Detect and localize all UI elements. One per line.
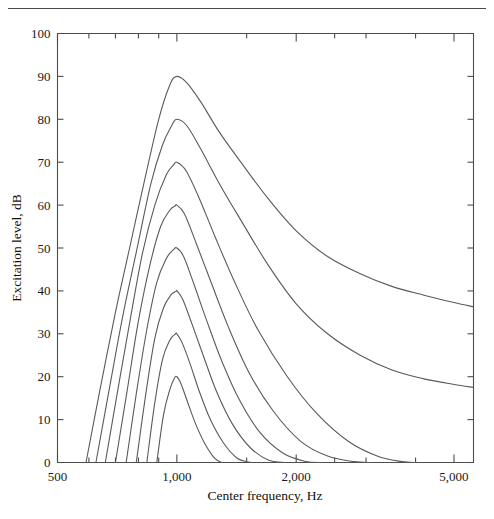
curve-group [86,76,474,462]
figure-page: 5001,0002,0005,000 010203040506070809010… [0,0,494,519]
axis-frame [58,34,474,463]
y-tick-label: 50 [38,241,51,256]
plot-border [58,34,474,463]
x-axis-tick-labels: 5001,0002,0005,000 [48,469,469,484]
y-tick-label: 40 [38,283,51,298]
y-tick-label: 30 [38,326,51,341]
x-tick-label: 500 [48,469,68,484]
x-tick-label: 1,000 [162,469,191,484]
y-tick-label: 20 [38,369,51,384]
y-tick-label: 0 [44,455,51,470]
x-axis-title: Center frequency, Hz [208,488,323,503]
y-axis-tick-labels: 0102030405060708090100 [31,26,51,470]
excitation-curve [115,205,371,463]
excitation-curve [105,162,415,463]
y-tick-label: 10 [38,412,51,427]
y-tick-label: 60 [38,198,51,213]
x-tick-label: 5,000 [439,469,468,484]
x-tick-label: 2,000 [282,469,311,484]
excitation-curve [147,333,251,462]
y-axis-ticks [58,34,474,463]
y-axis-title: Excitation level, dB [9,194,24,302]
y-tick-label: 100 [31,26,51,41]
x-axis-ticks [58,34,454,463]
excitation-curve [96,119,474,462]
chart-svg: 5001,0002,0005,000 010203040506070809010… [0,0,494,519]
y-tick-label: 80 [38,112,51,127]
excitation-curve [157,376,222,462]
excitation-curve [126,248,324,463]
excitation-pattern-chart: 5001,0002,0005,000 010203040506070809010… [0,0,494,519]
y-tick-label: 70 [38,155,51,170]
y-tick-label: 90 [38,69,51,84]
